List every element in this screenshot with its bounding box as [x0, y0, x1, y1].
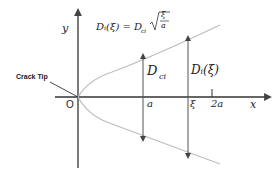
- tick-2a-label: 2a: [211, 98, 223, 109]
- tick-a-label: a: [147, 98, 153, 109]
- formula-denominator: a: [161, 21, 166, 30]
- crack-tip-pointer: [50, 82, 78, 97]
- origin-label: O: [66, 99, 74, 110]
- dci-sub-label: ci: [159, 72, 166, 81]
- crack-tip-label: Crack Tip: [16, 73, 48, 80]
- upper-crack-curve: [78, 25, 220, 97]
- y-axis-label: y: [62, 22, 68, 35]
- tick-xi-label: ξ: [190, 98, 196, 109]
- formula-sub: ci: [141, 27, 146, 34]
- di-xi-label: Dᵢ(ξ): [191, 63, 219, 77]
- x-axis-label: x: [250, 98, 256, 111]
- dci-label: D: [147, 63, 157, 78]
- formula-lhs: Dᵢ(ξ) = D: [96, 21, 142, 32]
- formula-numerator: ξ: [161, 10, 165, 19]
